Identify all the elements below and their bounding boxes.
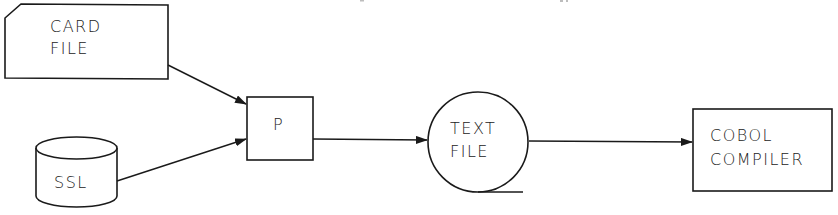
text-file-label-line2: FILE xyxy=(450,142,489,161)
text-file-label-line1: TEXT xyxy=(450,119,496,138)
card-file-label-line2: FILE xyxy=(50,39,89,58)
arrow-text-file-to-compiler xyxy=(529,141,692,142)
cobol-compiler-label-line2: COMPILER xyxy=(710,150,804,169)
arrow-ssl-to-p xyxy=(117,139,246,181)
card-file-label-line1: CARD xyxy=(50,17,102,36)
flowchart-diagram: CARD FILE SSL P TEXT FILE COBOL COMPILER xyxy=(0,0,838,215)
arrow-card-file-to-p xyxy=(168,65,246,104)
cutoff-text-remnant xyxy=(360,0,568,2)
cobol-compiler-node: COBOL COMPILER xyxy=(693,109,832,191)
arrow-p-to-text-file xyxy=(313,139,427,140)
cobol-compiler-label-line1: COBOL xyxy=(710,126,773,145)
text-file-node: TEXT FILE xyxy=(428,92,528,192)
card-file-node: CARD FILE xyxy=(5,4,168,79)
ssl-node: SSL xyxy=(36,137,117,207)
p-label: P xyxy=(273,115,284,134)
p-node: P xyxy=(247,97,313,160)
cylinder-top xyxy=(36,137,117,159)
ssl-label: SSL xyxy=(54,173,88,192)
